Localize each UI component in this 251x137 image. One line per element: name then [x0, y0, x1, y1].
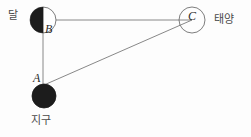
earth-body	[32, 84, 56, 108]
moon-label: 달	[8, 10, 18, 21]
astronomy-diagram: 달 태양 지구 A B C	[0, 0, 251, 137]
line-earth-to-sun	[44, 20, 192, 85]
sun-label: 태양	[214, 14, 234, 25]
point-label-c: C	[188, 10, 196, 22]
earth-label: 지구	[31, 115, 51, 126]
point-label-a: A	[33, 72, 40, 84]
point-label-b: B	[45, 23, 52, 35]
